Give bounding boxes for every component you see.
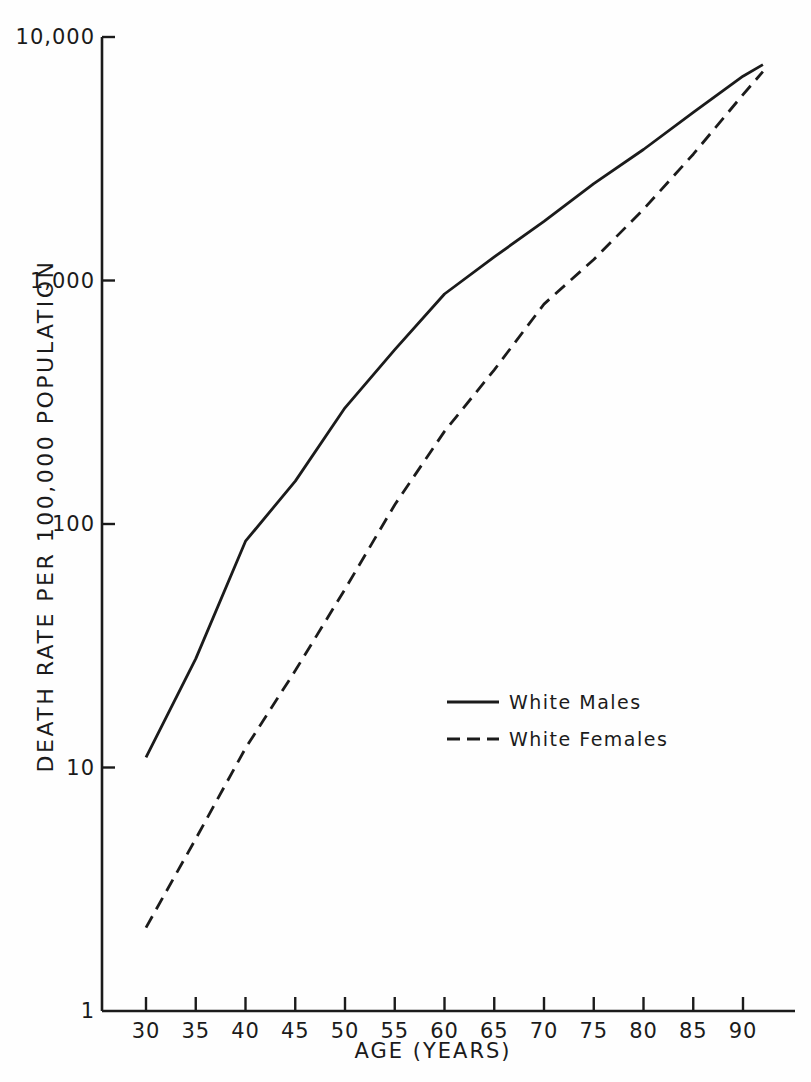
y-tick-label: 100	[52, 512, 95, 536]
legend-entry-white-males: White Males	[447, 688, 668, 716]
legend: White Males White Females	[447, 688, 668, 762]
x-tick-label: 70	[530, 1019, 559, 1043]
x-tick-label: 35	[181, 1019, 210, 1043]
x-tick-label: 75	[579, 1019, 608, 1043]
dashed-line-icon	[447, 736, 499, 742]
y-tick-label: 10,000	[16, 25, 95, 49]
x-tick-label: 85	[679, 1019, 708, 1043]
x-tick-label: 80	[629, 1019, 658, 1043]
y-tick-label: 10	[66, 756, 95, 780]
x-tick-label: 40	[231, 1019, 260, 1043]
legend-entry-white-females: White Females	[447, 725, 668, 753]
legend-label-white-females: White Females	[509, 728, 668, 750]
legend-label-white-males: White Males	[509, 691, 642, 713]
x-tick-label: 30	[132, 1019, 161, 1043]
series-line-white-males	[146, 65, 763, 758]
y-axis-title: DEATH RATE PER 100,000 POPULATION	[33, 260, 58, 773]
x-tick-label: 45	[281, 1019, 310, 1043]
y-tick-label: 1	[81, 999, 95, 1023]
series-line-white-females	[146, 72, 763, 928]
x-tick-label: 90	[729, 1019, 758, 1043]
mortality-rate-figure: 1101001,00010,00030354045505560657075808…	[0, 0, 811, 1082]
solid-line-icon	[447, 699, 499, 705]
x-axis-title: AGE (YEARS)	[355, 1039, 512, 1063]
chart-plot-area: 1101001,00010,00030354045505560657075808…	[0, 0, 811, 1082]
